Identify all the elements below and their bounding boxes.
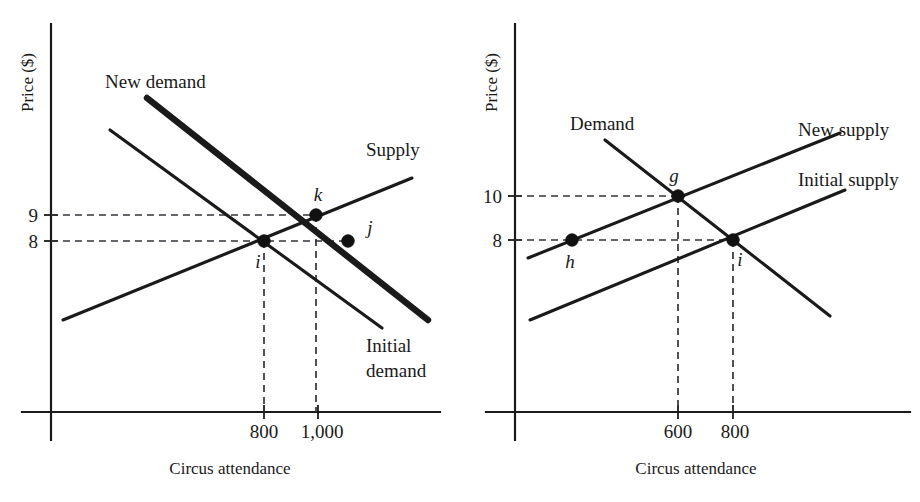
right-y-axis-label: Price ($) — [482, 53, 501, 112]
right-panel-supply-shift: Price ($) 10 8 600 800 Circus attendance… — [460, 0, 920, 502]
economics-figure: Price ($) 9 8 800 1,000 Circus attendanc… — [0, 0, 920, 502]
left-label-initial-demand-line2: demand — [366, 360, 427, 381]
left-xtick-label-1000: 1,000 — [301, 421, 344, 442]
left-label-new-demand: New demand — [105, 71, 206, 92]
right-point-label-i: i — [737, 249, 742, 270]
right-point-i — [727, 234, 739, 246]
right-point-label-h: h — [565, 251, 575, 272]
left-point-k — [310, 209, 322, 221]
right-xtick-label-600: 600 — [664, 421, 693, 442]
left-panel-demand-shift: Price ($) 9 8 800 1,000 Circus attendanc… — [0, 0, 460, 502]
left-xtick-label-800: 800 — [250, 421, 279, 442]
left-point-j — [342, 235, 354, 247]
right-point-label-g: g — [669, 165, 679, 186]
left-y-axis-label: Price ($) — [18, 53, 37, 112]
right-ytick-label-8: 8 — [493, 230, 503, 251]
right-initial-supply-curve — [530, 190, 845, 320]
right-point-g — [672, 190, 684, 202]
right-xtick-label-800: 800 — [721, 421, 750, 442]
right-point-h — [566, 234, 578, 246]
left-supply-curve — [63, 178, 412, 320]
left-label-initial-demand-line1: Initial — [366, 335, 411, 356]
left-label-supply: Supply — [366, 139, 420, 160]
right-ytick-label-10: 10 — [483, 186, 502, 207]
left-point-i — [258, 235, 270, 247]
left-ytick-label-8: 8 — [29, 231, 39, 252]
right-label-new-supply: New supply — [798, 119, 890, 140]
right-x-axis-label: Circus attendance — [635, 459, 756, 478]
left-x-axis-label: Circus attendance — [169, 459, 290, 478]
right-label-initial-supply: Initial supply — [798, 169, 899, 190]
right-demand-curve — [605, 140, 830, 316]
left-initial-demand-curve — [110, 130, 382, 328]
left-new-demand-curve — [147, 98, 428, 320]
left-point-label-k: k — [314, 184, 323, 205]
left-point-label-j: j — [364, 217, 372, 238]
right-label-demand: Demand — [570, 113, 635, 134]
left-ytick-label-9: 9 — [29, 205, 39, 226]
left-point-label-i: i — [255, 251, 260, 272]
